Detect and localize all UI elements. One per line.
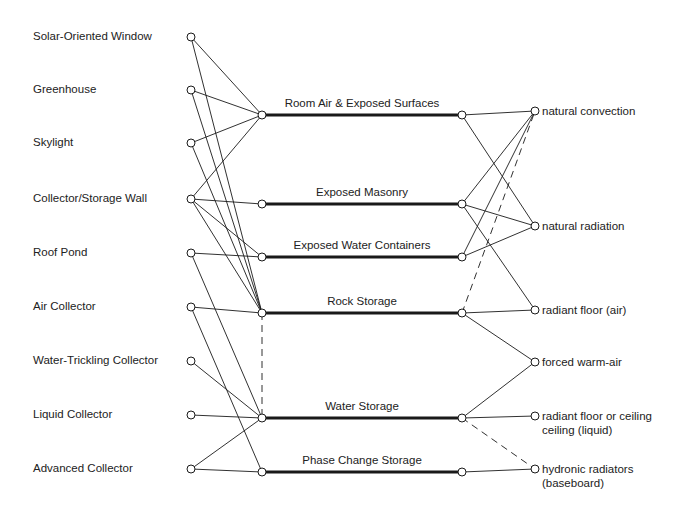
source-label-solar-oriented-window: Solar-Oriented Window xyxy=(33,29,152,43)
connector-s3-m2 xyxy=(191,199,262,257)
connector-m1-d0 xyxy=(462,111,535,204)
node-collector-storage-wall xyxy=(187,195,195,203)
connector-s3-m1 xyxy=(191,199,262,204)
storage-label-exposed-masonry: Exposed Masonry xyxy=(262,185,462,199)
node-exposed-masonry-out xyxy=(458,200,466,208)
connector-m0-d1 xyxy=(462,115,535,226)
node-water-trickling-collector xyxy=(187,357,195,365)
storage-label-water-storage: Water Storage xyxy=(262,399,462,413)
node-solar-oriented-window xyxy=(187,33,195,41)
storage-label-exposed-water-containers: Exposed Water Containers xyxy=(262,238,462,252)
node-liquid-collector xyxy=(187,411,195,419)
node-rock-storage-out xyxy=(458,309,466,317)
node-phase-change-storage-in xyxy=(258,468,266,476)
connector-s0-m0 xyxy=(191,37,262,115)
connector-m3-d0-dashed xyxy=(462,111,535,313)
distribution-label-line: natural radiation xyxy=(542,219,624,233)
flow-diagram xyxy=(0,0,693,515)
source-label-roof-pond: Roof Pond xyxy=(33,245,87,259)
distribution-label-natural-radiation: natural radiation xyxy=(542,219,624,233)
node-forced-warm-air xyxy=(531,358,539,366)
node-rock-storage-in xyxy=(258,309,266,317)
connector-m2-d1 xyxy=(462,226,535,257)
connector-m3-d3 xyxy=(462,313,535,362)
connector-s6-m4 xyxy=(191,361,262,418)
node-greenhouse xyxy=(187,86,195,94)
connector-s2-m0 xyxy=(191,115,262,143)
storage-label-rock-storage: Rock Storage xyxy=(262,294,462,308)
connector-m2-d0 xyxy=(462,111,535,257)
node-natural-radiation xyxy=(531,222,539,230)
source-label-liquid-collector: Liquid Collector xyxy=(33,407,112,421)
node-radiant-floor-or-ceiling xyxy=(531,412,539,420)
node-water-storage-out xyxy=(458,414,466,422)
storage-label-room-air-exposed-surfaces: Room Air & Exposed Surfaces xyxy=(262,96,462,110)
source-label-advanced-collector: Advanced Collector xyxy=(33,461,133,475)
node-radiant-floor-air xyxy=(531,306,539,314)
connector-s7-m4 xyxy=(191,415,262,418)
distribution-label-radiant-floor-or-ceiling: radiant floor or ceilingceiling (liquid) xyxy=(542,409,652,437)
connector-s5-m3 xyxy=(191,307,262,313)
node-advanced-collector xyxy=(187,465,195,473)
connector-m0-d0 xyxy=(462,111,535,115)
node-exposed-water-containers-out xyxy=(458,253,466,261)
distribution-label-line: radiant floor or ceiling xyxy=(542,409,652,423)
source-label-air-collector: Air Collector xyxy=(33,299,96,313)
node-exposed-water-containers-in xyxy=(258,253,266,261)
storage-label-phase-change-storage: Phase Change Storage xyxy=(262,453,462,467)
distribution-label-forced-warm-air: forced warm-air xyxy=(542,355,622,369)
distribution-label-line: hydronic radiators xyxy=(542,462,633,476)
connector-s8-m4 xyxy=(191,418,262,469)
connector-s4-m4 xyxy=(191,253,262,418)
connector-m1-d2 xyxy=(462,204,535,310)
connector-m5-d5 xyxy=(462,469,535,472)
connector-m3-d2 xyxy=(462,310,535,313)
connector-s0-m3 xyxy=(191,37,262,313)
distribution-label-line: forced warm-air xyxy=(542,355,622,369)
connector-m4-d3 xyxy=(462,362,535,418)
distribution-label-radiant-floor-air: radiant floor (air) xyxy=(542,303,626,317)
connector-m1-d1 xyxy=(462,204,535,226)
node-phase-change-storage-out xyxy=(458,468,466,476)
node-skylight xyxy=(187,139,195,147)
source-label-greenhouse: Greenhouse xyxy=(33,82,96,96)
distribution-label-natural-convection: natural convection xyxy=(542,104,635,118)
source-label-water-trickling-collector: Water-Trickling Collector xyxy=(33,353,158,367)
node-room-air-exposed-surfaces-in xyxy=(258,111,266,119)
node-exposed-masonry-in xyxy=(258,200,266,208)
distribution-label-hydronic-radiators: hydronic radiators(baseboard) xyxy=(542,462,633,490)
connector-s1-m0 xyxy=(191,90,262,115)
distribution-label-line: radiant floor (air) xyxy=(542,303,626,317)
connector-s8-m5 xyxy=(191,469,262,472)
node-natural-convection xyxy=(531,107,539,115)
node-room-air-exposed-surfaces-out xyxy=(458,111,466,119)
node-air-collector xyxy=(187,303,195,311)
source-label-skylight: Skylight xyxy=(33,135,73,149)
node-hydronic-radiators xyxy=(531,465,539,473)
distribution-label-line: ceiling (liquid) xyxy=(542,423,652,437)
node-roof-pond xyxy=(187,249,195,257)
source-label-collector-storage-wall: Collector/Storage Wall xyxy=(33,191,147,205)
distribution-label-line: (baseboard) xyxy=(542,476,633,490)
connector-s3-m0 xyxy=(191,115,262,199)
node-water-storage-in xyxy=(258,414,266,422)
distribution-label-line: natural convection xyxy=(542,104,635,118)
connector-m4-d5-dashed xyxy=(462,418,535,469)
connector-m4-d4 xyxy=(462,416,535,418)
